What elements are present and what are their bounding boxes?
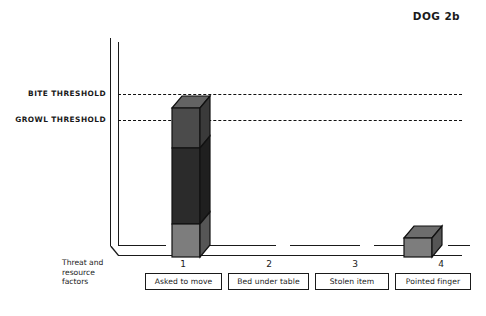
floor-back-segment-1 — [118, 245, 166, 246]
growl-threshold-line — [118, 120, 462, 121]
x-axis-caption-line-2: resource — [62, 268, 114, 278]
category-number-4: 4 — [403, 259, 479, 269]
chart-canvas: DOG 2b BITE THRESHOLD GROWL THRESHOLD — [0, 0, 486, 316]
bite-threshold-line — [118, 94, 462, 95]
category-label-3: Stolen item — [330, 277, 375, 286]
x-axis-caption: Threat and resource factors — [62, 258, 114, 287]
category-number-3: 3 — [317, 259, 393, 269]
bar-category-4 — [404, 226, 450, 258]
y-axis-back-line — [110, 38, 111, 246]
floor-back-segment-4 — [374, 245, 404, 246]
category-label-1: Asked to move — [155, 277, 213, 286]
category-number-1: 1 — [145, 259, 221, 269]
floor-back-segment-5 — [448, 245, 470, 246]
x-axis-caption-line-1: Threat and — [62, 258, 114, 268]
category-box-2[interactable]: Bed under table — [228, 273, 309, 290]
floor-back-segment-3 — [290, 245, 360, 246]
x-axis-caption-line-3: factors — [62, 277, 114, 287]
bar-category-1 — [172, 96, 218, 258]
category-box-4[interactable]: Pointed finger — [395, 273, 471, 290]
chart-title: DOG 2b — [413, 10, 460, 22]
category-label-4: Pointed finger — [406, 277, 460, 286]
category-label-2: Bed under table — [237, 277, 300, 286]
bite-threshold-label: BITE THRESHOLD — [28, 89, 106, 98]
category-box-3[interactable]: Stolen item — [315, 273, 389, 290]
y-axis-front-line — [118, 42, 119, 245]
category-number-2: 2 — [231, 259, 307, 269]
growl-threshold-label: GROWL THRESHOLD — [15, 115, 106, 124]
category-box-1[interactable]: Asked to move — [145, 273, 222, 290]
